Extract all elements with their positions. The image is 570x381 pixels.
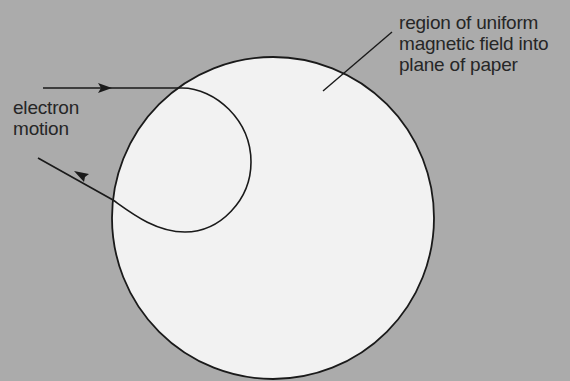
electron-motion-label: electron motion [13, 97, 79, 139]
magnetic-field-region [112, 57, 434, 379]
field-region-label: region of uniform magnetic field into pl… [399, 12, 548, 75]
arrowhead-outgoing-icon [74, 171, 89, 182]
